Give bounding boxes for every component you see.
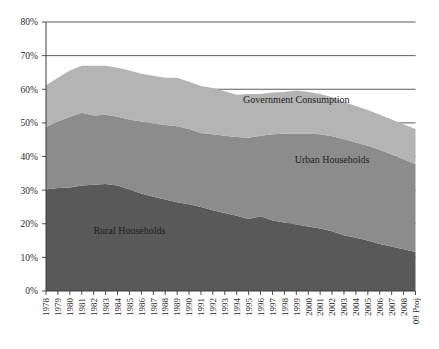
x-tick-label-21: 1999 <box>292 298 302 317</box>
series-areas <box>46 66 416 291</box>
x-tick-label-6: 1984 <box>113 298 123 317</box>
x-tick-label-20: 1998 <box>280 298 290 317</box>
y-tick-label-50: 50% <box>21 118 39 128</box>
y-tick-label-70: 70% <box>21 51 39 61</box>
y-tick-label-80: 80% <box>21 17 39 27</box>
x-tick-label-0: 1978 <box>41 298 51 317</box>
chart-canvas: 0%10%20%30%40%50%60%70%80%19781979198019… <box>0 0 439 349</box>
y-tick-label-30: 30% <box>21 186 39 196</box>
x-tick-label-23: 2001 <box>315 298 325 316</box>
x-tick-label-18: 1996 <box>256 298 266 317</box>
x-tick-label-25: 2003 <box>339 298 349 317</box>
x-tick-label-22: 2000 <box>304 298 314 317</box>
x-tick-label-7: 1985 <box>125 298 135 317</box>
x-tick-label-14: 1992 <box>208 298 218 316</box>
x-axis: 1978197919801981198219831984198519861987… <box>41 291 421 324</box>
x-tick-label-5: 1983 <box>101 298 111 317</box>
annotation-government-consumption: Government Consumption <box>243 94 349 105</box>
x-tick-label-27: 2005 <box>363 298 373 317</box>
y-tick-label-0: 0% <box>25 286 38 296</box>
x-tick-label-17: 1995 <box>244 298 254 317</box>
y-axis: 0%10%20%30%40%50%60%70%80% <box>21 17 46 296</box>
x-tick-label-26: 2004 <box>351 298 361 317</box>
x-tick-label-11: 1989 <box>172 298 182 317</box>
x-tick-label-2: 1980 <box>65 298 75 317</box>
y-tick-label-10: 10% <box>21 253 39 263</box>
stacked-area-chart: 0%10%20%30%40%50%60%70%80%19781979198019… <box>0 0 439 349</box>
annotation-urban-households: Urban Households <box>295 154 370 165</box>
x-tick-label-28: 2006 <box>375 298 385 317</box>
x-tick-label-30: 2008 <box>399 298 409 317</box>
x-tick-label-3: 1981 <box>77 298 87 316</box>
y-tick-label-40: 40% <box>21 152 39 162</box>
x-tick-label-9: 1987 <box>149 298 159 317</box>
x-tick-label-24: 2002 <box>327 298 337 316</box>
x-tick-label-16: 1994 <box>232 298 242 317</box>
x-tick-label-15: 1993 <box>220 298 230 317</box>
x-tick-label-12: 1990 <box>184 298 194 317</box>
x-tick-label-8: 1986 <box>137 298 147 317</box>
x-tick-label-29: 2007 <box>387 298 397 317</box>
y-tick-label-20: 20% <box>21 219 39 229</box>
x-tick-label-19: 1997 <box>268 298 278 317</box>
x-tick-label-13: 1991 <box>196 298 206 316</box>
y-tick-label-60: 60% <box>21 85 39 95</box>
x-tick-label-1: 1979 <box>53 298 63 317</box>
x-tick-label-4: 1982 <box>89 298 99 316</box>
x-tick-label-31: 09 Proj <box>411 298 421 324</box>
x-tick-label-10: 1988 <box>160 298 170 317</box>
annotation-rural-households: Rural Households <box>93 225 165 236</box>
